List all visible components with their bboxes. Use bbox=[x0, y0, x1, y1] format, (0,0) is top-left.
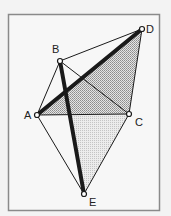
point-C[interactable] bbox=[127, 112, 132, 117]
point-A[interactable] bbox=[35, 113, 40, 118]
label-A: A bbox=[24, 109, 32, 121]
point-B[interactable] bbox=[58, 59, 63, 64]
geometry-diagram: ABCDE bbox=[0, 0, 171, 216]
label-B: B bbox=[52, 43, 59, 55]
point-E[interactable] bbox=[82, 192, 87, 197]
point-D[interactable] bbox=[140, 27, 145, 32]
label-E: E bbox=[89, 196, 96, 208]
label-D: D bbox=[146, 23, 154, 35]
label-C: C bbox=[135, 116, 143, 128]
